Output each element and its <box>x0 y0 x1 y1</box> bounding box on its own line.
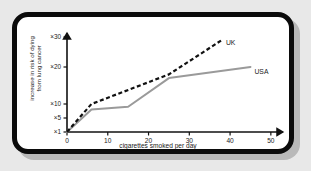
x-axis-tick-label: 10 <box>100 137 116 144</box>
y-axis-tick-label: ×10 <box>39 100 61 107</box>
chart-card: increase in risk of dying from lung canc… <box>12 12 294 154</box>
series-label-uk: UK <box>226 39 235 46</box>
x-axis-tick-label: 30 <box>181 137 197 144</box>
series-line-uk <box>67 40 222 132</box>
x-axis-tick-label: 0 <box>59 137 75 144</box>
x-axis-tick-label: 20 <box>141 137 157 144</box>
series-label-usa: USA <box>254 68 268 75</box>
figure-root: increase in risk of dying from lung canc… <box>0 0 311 171</box>
y-axis-tick-label: ×5 <box>39 114 61 121</box>
x-axis-tick-label: 40 <box>222 137 238 144</box>
y-axis-tick-label: ×1 <box>39 128 61 135</box>
x-axis-tick-label: 50 <box>263 137 279 144</box>
y-axis-tick-label: ×30 <box>39 33 61 40</box>
chart-plot-area: increase in risk of dying from lung canc… <box>17 17 299 159</box>
series-line-usa <box>67 67 250 132</box>
y-axis-tick-label: ×20 <box>39 63 61 70</box>
